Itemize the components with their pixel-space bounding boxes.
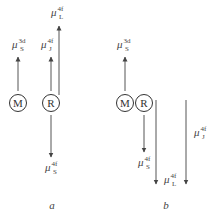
- panel-a: MRμ3dSμ4fJμ4fLμ4fS: [10, 5, 65, 176]
- mu-s-4f-down-arrow: μ4fS: [137, 115, 151, 171]
- svg-text:J: J: [202, 133, 205, 141]
- caption-b: b: [163, 199, 169, 211]
- svg-text:S: S: [146, 163, 150, 171]
- panel-b: MRμ3dSμ4fSμ4fLμ4fJ: [116, 37, 207, 188]
- caption-a: a: [49, 199, 55, 211]
- magnetic-moment-diagram: MRμ3dSμ4fJμ4fLμ4fSMRμ3dSμ4fSμ4fLμ4fJ a b: [0, 0, 218, 214]
- svg-text:L: L: [172, 180, 176, 188]
- svg-text:L: L: [59, 13, 63, 21]
- svg-text:S: S: [53, 168, 57, 176]
- mu-l-4f-up-arrow: μ4fL: [50, 5, 64, 95]
- mu-j-4f-down-label: μ4f: [193, 125, 207, 138]
- atom-R: R: [136, 95, 153, 112]
- atom-label: R: [140, 97, 148, 109]
- mu-s-4f-down-arrow: μ4fS: [44, 115, 58, 176]
- mu-l-4f-down-arrow: μ4fL: [156, 100, 177, 188]
- atom-M: M: [117, 95, 134, 112]
- svg-text:S: S: [20, 45, 24, 53]
- mu-j-4f-up-label: μ4f: [40, 37, 54, 50]
- atom-label: M: [13, 97, 23, 109]
- atom-label: M: [120, 97, 130, 109]
- atom-M: M: [10, 95, 27, 112]
- svg-text:J: J: [49, 45, 52, 53]
- svg-text:S: S: [125, 45, 129, 53]
- mu-s-3d-up-arrow: μ3dS: [11, 37, 26, 91]
- mu-j-4f-up-arrow: μ4fJ: [40, 37, 54, 91]
- mu-s-3d-up-arrow: μ3dS: [116, 37, 131, 91]
- atom-label: R: [47, 97, 55, 109]
- mu-j-4f-down-arrow: μ4fJ: [186, 100, 207, 184]
- atom-R: R: [43, 95, 60, 112]
